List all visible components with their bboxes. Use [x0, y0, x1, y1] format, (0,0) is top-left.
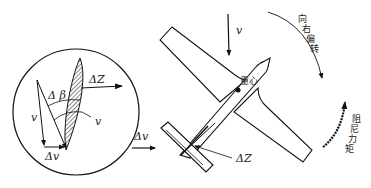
svg-text:右: 右 [302, 23, 311, 34]
inset-label-delta-z: ΔZ [88, 73, 105, 86]
inset-label-delta-v: Δv [44, 150, 60, 163]
damping-moment-arrow [323, 102, 345, 147]
label-damping-moment: 阻 尼 力 矩 [345, 114, 361, 154]
label-delta-v: Δv [133, 130, 149, 143]
svg-text:阻: 阻 [352, 114, 361, 124]
svg-text:尼: 尼 [350, 124, 359, 134]
fin-airfoil [65, 58, 83, 150]
inset-label-delta-beta: Δ β [47, 89, 66, 102]
inset-detail: ΔZ Δ β v v Δv [13, 49, 139, 175]
label-center-of-gravity: 重心 [240, 75, 258, 86]
label-delta-z: ΔZ [235, 152, 252, 165]
right-wing [234, 88, 312, 162]
left-wing [160, 27, 246, 102]
inset-label-v-right: v [95, 115, 102, 128]
svg-text:向: 向 [298, 13, 307, 24]
svg-text:力: 力 [348, 133, 357, 144]
v-vector-left [37, 80, 44, 145]
inset-label-v-left: v [31, 111, 38, 124]
svg-text:转: 转 [310, 43, 319, 54]
svg-text:矩: 矩 [345, 143, 354, 154]
v-arrow-top [228, 14, 229, 55]
delta-z-arrow [81, 86, 122, 88]
yaw-damping-diagram: ΔZ Δ β v v Δv 重心 v Δv ΔZ 向 右 偏 转 [0, 0, 371, 188]
label-v-top: v [236, 24, 243, 37]
center-of-gravity-dot [236, 88, 241, 93]
svg-text:偏: 偏 [306, 33, 315, 44]
airplane [160, 27, 312, 172]
label-yaw-right: 向 右 偏 转 [298, 13, 319, 54]
